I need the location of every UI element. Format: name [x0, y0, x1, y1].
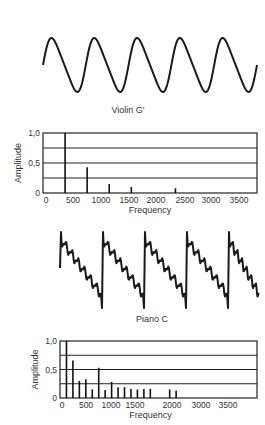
figure: Violin G' 1,00,50Amplitude05001000150020… — [0, 0, 265, 425]
y-tick-label: 0 — [35, 188, 40, 198]
x-tick-label: 1500 — [120, 195, 139, 205]
y-tick-label: 1,0 — [45, 336, 57, 346]
x-axis-title: Frequency — [129, 410, 172, 420]
x-axis-title: Frequency — [129, 205, 172, 215]
y-tick-label: 0,5 — [45, 365, 57, 375]
y-axis-title: Amplitude — [13, 143, 23, 183]
x-tick-label: 1000 — [102, 400, 121, 410]
piano-spectrum-chart: 1,00,50Amplitude050010001500200030003500… — [30, 336, 257, 420]
x-tick-label: 2500 — [176, 195, 195, 205]
x-tick-label: 3000 — [192, 400, 211, 410]
x-tick-label: 0 — [44, 195, 49, 205]
violin-waveform — [43, 38, 257, 92]
x-tick-label: 500 — [66, 195, 80, 205]
y-tick-label: 0 — [52, 393, 57, 403]
violin-spectrum-chart: 1,00,50Amplitude050010001500200025003000… — [13, 128, 257, 215]
x-tick-label: 2000 — [147, 195, 166, 205]
x-tick-label: 0 — [60, 400, 65, 410]
x-tick-label: 1500 — [126, 400, 145, 410]
y-axis-title: Amplitude — [30, 349, 40, 389]
x-tick-label: 500 — [79, 400, 93, 410]
piano-title: Piano C — [136, 314, 169, 324]
y-tick-label: 0,5 — [28, 158, 40, 168]
x-tick-label: 3500 — [219, 400, 238, 410]
piano-waveform — [60, 232, 259, 308]
y-tick-label: 1,0 — [28, 128, 40, 138]
violin-title: Violin G' — [111, 105, 144, 115]
x-tick-label: 2000 — [163, 400, 182, 410]
x-tick-label: 3500 — [230, 195, 249, 205]
x-tick-label: 3000 — [202, 195, 221, 205]
x-tick-label: 1000 — [92, 195, 111, 205]
